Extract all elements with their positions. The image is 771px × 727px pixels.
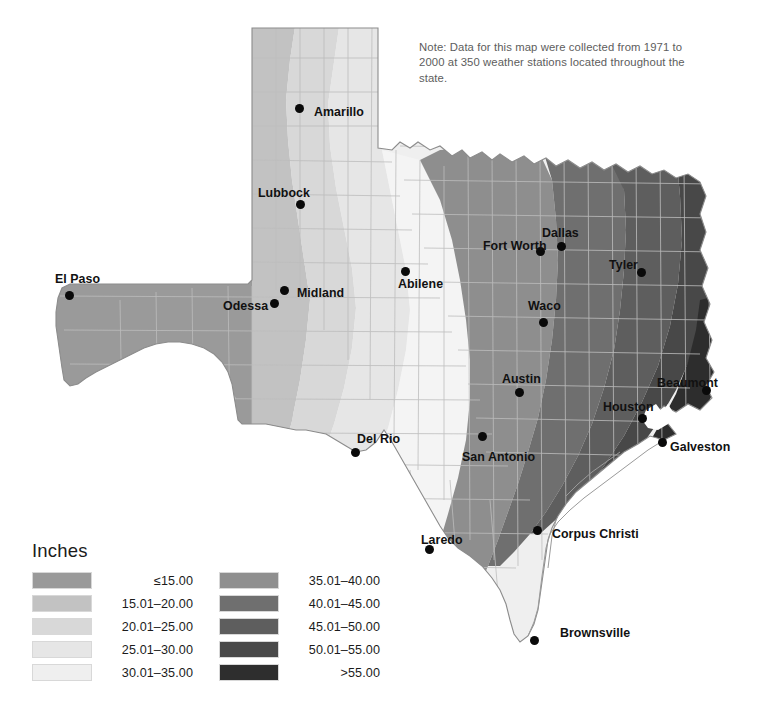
city-label: Odessa: [223, 299, 268, 313]
city-marker-dot[interactable]: [296, 200, 305, 209]
city-label: Corpus Christi: [552, 527, 639, 541]
city-marker-dot[interactable]: [658, 438, 667, 447]
city-marker-dot[interactable]: [270, 299, 279, 308]
legend-row: 30.01–35.00: [32, 664, 193, 681]
band-bigbend-highland: [172, 372, 236, 420]
legend-label: >55.00: [287, 666, 380, 680]
city-marker-dot[interactable]: [401, 267, 410, 276]
legend-low-swatch: [32, 641, 92, 658]
city-label: Del Rio: [357, 432, 400, 446]
legend-high-swatch: [219, 595, 279, 612]
legend-high-swatch: [219, 572, 279, 589]
city-marker-dot[interactable]: [638, 414, 647, 423]
legend-label: 50.01–55.00: [287, 643, 380, 657]
city-marker-dot[interactable]: [280, 286, 289, 295]
city-marker-dot[interactable]: [533, 526, 542, 535]
legend-row: 40.01–45.00: [219, 595, 380, 612]
legend-row: 25.01–30.00: [32, 641, 193, 658]
legend-row: 45.01–50.00: [219, 618, 380, 635]
city-label: Laredo: [421, 533, 463, 547]
map-note: Note: Data for this map were collected f…: [419, 40, 707, 86]
legend-label: 20.01–25.00: [100, 620, 193, 634]
city-label: Midland: [297, 286, 344, 300]
legend-row: ≤15.00: [32, 572, 193, 589]
legend-column-low: ≤15.0015.01–20.0020.01–25.0025.01–30.003…: [32, 572, 193, 681]
city-label: Tyler: [609, 258, 638, 272]
legend-high-swatch: [219, 664, 279, 681]
legend-label: 30.01–35.00: [100, 666, 193, 680]
legend-label: 45.01–50.00: [287, 620, 380, 634]
city-marker-dot[interactable]: [351, 448, 360, 457]
city-label: Galveston: [670, 440, 730, 454]
band-bigbend-highland-small: [156, 364, 180, 386]
city-label: Fort Worth: [483, 239, 547, 253]
legend-low-swatch: [32, 664, 92, 681]
city-label: Abilene: [398, 277, 443, 291]
legend-label: 15.01–20.00: [100, 597, 193, 611]
legend-label: 40.01–45.00: [287, 597, 380, 611]
legend-title: Inches: [32, 540, 380, 562]
legend-column-high: 35.01–40.0040.01–45.0045.01–50.0050.01–5…: [219, 572, 380, 681]
legend-label: 25.01–30.00: [100, 643, 193, 657]
city-label: San Antonio: [462, 450, 535, 464]
city-marker-dot[interactable]: [530, 636, 539, 645]
city-label: Beaumont: [657, 376, 718, 390]
legend-low-swatch: [32, 595, 92, 612]
city-marker-dot[interactable]: [478, 432, 487, 441]
city-label: Waco: [528, 299, 561, 313]
city-label: Houston: [603, 400, 654, 414]
legend-row: >55.00: [219, 664, 380, 681]
city-label: Amarillo: [314, 105, 364, 119]
legend: Inches ≤15.0015.01–20.0020.01–25.0025.01…: [32, 540, 380, 681]
city-label: El Paso: [55, 272, 100, 286]
precipitation-map: Note: Data for this map were collected f…: [0, 0, 771, 727]
legend-low-swatch: [32, 618, 92, 635]
city-marker-dot[interactable]: [557, 242, 566, 251]
legend-row: 20.01–25.00: [32, 618, 193, 635]
city-label: Brownsville: [560, 626, 630, 640]
legend-label: ≤15.00: [100, 574, 193, 588]
city-label: Dallas: [542, 226, 579, 240]
legend-high-swatch: [219, 618, 279, 635]
legend-row: 50.01–55.00: [219, 641, 380, 658]
legend-label: 35.01–40.00: [287, 574, 380, 588]
city-marker-dot[interactable]: [295, 104, 304, 113]
city-label: Austin: [502, 372, 541, 386]
city-marker-dot[interactable]: [515, 388, 524, 397]
legend-row: 15.01–20.00: [32, 595, 193, 612]
legend-row: 35.01–40.00: [219, 572, 380, 589]
city-marker-dot[interactable]: [539, 318, 548, 327]
legend-high-swatch: [219, 641, 279, 658]
legend-low-swatch: [32, 572, 92, 589]
city-label: Lubbock: [258, 186, 310, 200]
city-marker-dot[interactable]: [65, 291, 74, 300]
